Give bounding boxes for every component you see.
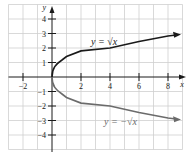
y-tick-label: 3	[42, 30, 46, 39]
x-tick-label: −2	[19, 82, 28, 91]
lower-curve-label: y = −√x	[103, 116, 137, 127]
x-tick-label: 6	[137, 82, 141, 91]
upper-curve-arrow-icon	[173, 32, 181, 38]
x-axis-label: x	[179, 80, 184, 89]
y-tick-label: −1	[37, 88, 46, 97]
y-tick-label: −3	[37, 117, 46, 126]
upper-curve-label: y = √x	[90, 36, 118, 47]
x-tick-label: 4	[108, 82, 112, 91]
y-tick-label: 2	[42, 44, 46, 53]
chart: −2 2 4 6 8 x 4 3 2 1 −1 −2 −3 −4 y y = √…	[0, 0, 189, 153]
lower-curve-arrow-icon	[173, 116, 181, 122]
y-tick-label: −2	[37, 102, 46, 111]
lower-curve	[52, 77, 174, 119]
y-axis-label: y	[41, 3, 46, 12]
y-axis-arrow-icon	[50, 6, 55, 13]
x-tick-label: 2	[79, 82, 83, 91]
y-tick-label: −4	[37, 131, 46, 140]
y-tick-label: 1	[42, 59, 46, 68]
x-tick-label: 8	[166, 82, 170, 91]
y-tick-label: 4	[42, 15, 46, 24]
